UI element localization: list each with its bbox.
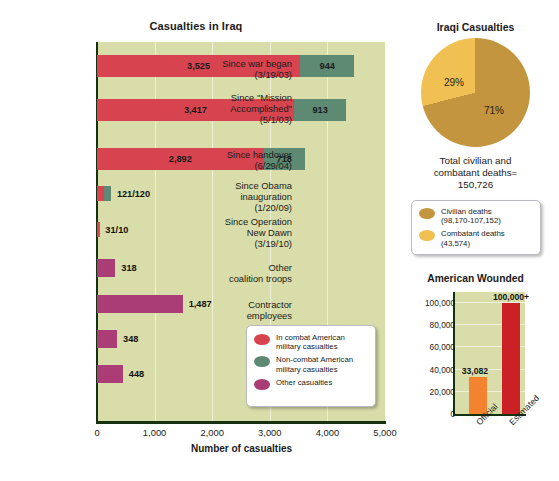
bar-value-label: 913 [312, 105, 327, 115]
wounded-value-label: 100,000+ [493, 292, 529, 302]
x-tick-label: 1,000 [143, 427, 166, 438]
gridline [385, 42, 386, 423]
category-label: Othercoalition troops [229, 262, 292, 284]
x-tick-label: 0 [94, 427, 99, 438]
bar-segment-combat[interactable] [97, 186, 104, 201]
wounded-y-axis-line [453, 292, 455, 416]
bar-value-label: 348 [123, 334, 138, 344]
legend-swatch-icon [254, 356, 270, 367]
bar-value-label: 31/10 [105, 225, 128, 235]
infographic-root: Casualties in Iraq 3,5259443,4179132,892… [0, 0, 559, 481]
bar-row[interactable]: 1,487 [97, 295, 385, 313]
wounded-y-tick-label: 80,000 [430, 320, 455, 330]
wounded-y-tick-label: 40,000 [430, 365, 455, 375]
wounded-y-tick-label: 100,000 [425, 298, 455, 308]
legend-label: In combat American military casualties [276, 333, 369, 351]
x-tick-label: 4,000 [316, 427, 339, 438]
main-bar-chart: Casualties in Iraq 3,5259443,4179132,892… [0, 0, 392, 481]
pie-total-line: 150,726 [394, 179, 557, 191]
legend-swatch-icon [254, 334, 270, 345]
pie-legend-swatch-icon [419, 208, 435, 219]
page-title: Casualties in Iraq [0, 20, 392, 32]
legend-item-other[interactable]: Other casualties [254, 378, 369, 390]
legend-label: Non-combat American military casualties [276, 355, 369, 373]
pie-legend-swatch-icon [419, 230, 435, 241]
x-axis-title: Number of casualties [97, 443, 386, 454]
main-legend: In combat American military casualtiesNo… [246, 325, 376, 407]
bar-value-label: 318 [121, 263, 136, 273]
legend-swatch-icon [254, 379, 270, 390]
bar-segment-other[interactable] [97, 259, 115, 277]
bar-segment-noncombat[interactable] [104, 186, 111, 201]
wounded-y-tick-label: 20,000 [430, 387, 455, 397]
x-tick-label: 2,000 [200, 427, 223, 438]
iraqi-casualties-panel: Iraqi Casualties 29% 71% Total civilian … [392, 0, 559, 268]
legend-label: Other casualties [276, 378, 332, 387]
wounded-y-tick-label: 0 [450, 409, 455, 419]
pie-legend-item-civ[interactable]: Civilian deaths(98,170-107,152) [419, 207, 535, 225]
category-label: Since war began(3/19/03) [222, 58, 292, 80]
pie-total-line: Total civilian and [394, 155, 557, 167]
bar-segment-other[interactable] [97, 295, 183, 313]
category-label: Since OperationNew Dawn(3/19/10) [225, 216, 292, 250]
pie-legend-label: Combatant deaths [441, 229, 505, 238]
bar-value-label: 121/120 [117, 189, 150, 199]
bar-value-label: 3,525 [187, 61, 210, 71]
wounded-y-tick-label: 60,000 [430, 342, 455, 352]
american-wounded-panel: American Wounded 020,00040,00060,00080,0… [392, 268, 559, 481]
pie-slice-label-combatant: 29% [444, 77, 464, 88]
bar-segment-other[interactable] [97, 365, 123, 383]
pie-chart-title: Iraqi Casualties [392, 21, 559, 33]
bar-value-label: 3,417 [184, 105, 207, 115]
category-label: Since Obamainauguration(1/20/09) [235, 180, 292, 214]
pie-legend: Civilian deaths(98,170-107,152)Combatant… [411, 200, 541, 255]
pie-legend-item-com[interactable]: Combatant deaths(43,574) [419, 229, 535, 247]
pie-legend-sublabel: (43,574) [441, 239, 505, 248]
x-axis-line [96, 421, 386, 424]
pie-slice-label-civilian: 71% [484, 105, 504, 116]
bar-segment-other[interactable] [97, 330, 117, 348]
pie-chart [421, 38, 530, 147]
category-label: Since "MissionAccomplished"(5/1/03) [230, 92, 292, 126]
wounded-chart-title: American Wounded [392, 273, 559, 284]
bar-value-label: 448 [129, 369, 144, 379]
wounded-value-label: 33,082 [462, 366, 488, 376]
category-label: Contractoremployees [247, 299, 292, 321]
legend-item-combat[interactable]: In combat American military casualties [254, 333, 369, 351]
bar-value-label: 1,487 [189, 299, 212, 309]
legend-item-noncombat[interactable]: Non-combat American military casualties [254, 355, 369, 373]
x-tick-label: 3,000 [258, 427, 281, 438]
category-label: Since handover(6/29/04) [227, 149, 292, 171]
bar-value-label: 944 [320, 61, 335, 71]
pie-legend-sublabel: (98,170-107,152) [441, 216, 501, 225]
pie-total-caption: Total civilian andcombatant deaths=150,7… [394, 155, 557, 192]
wounded-bar-estimated[interactable] [502, 303, 520, 414]
bar-value-label: 2,892 [169, 154, 192, 164]
pie-total-line: combatant deaths= [394, 167, 557, 179]
bar-segment-noncombat[interactable] [99, 222, 100, 237]
pie-legend-label: Civilian deaths [441, 207, 501, 216]
